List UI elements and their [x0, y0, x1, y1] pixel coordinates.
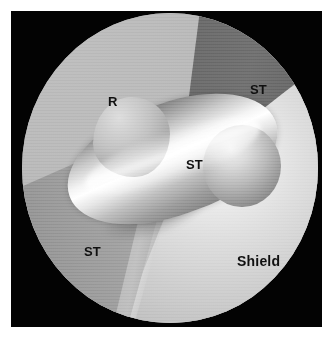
- label-shield: Shield: [237, 254, 280, 268]
- figure-panel: R ST ST ST Shield: [0, 0, 332, 340]
- label-r: R: [108, 95, 118, 108]
- image-plate: R ST ST ST Shield: [11, 11, 322, 327]
- label-st-lower-left: ST: [84, 245, 101, 258]
- circular-viewport: R ST ST ST Shield: [22, 13, 318, 323]
- label-st-center: ST: [186, 158, 203, 171]
- label-st-upper-right: ST: [250, 83, 267, 96]
